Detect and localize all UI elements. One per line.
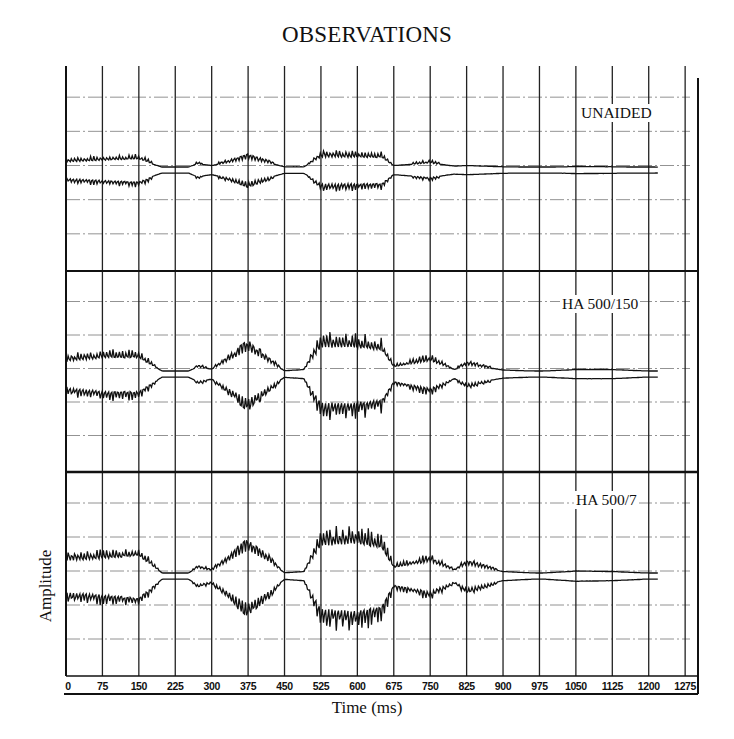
- x-tick-label: 300: [204, 680, 220, 692]
- x-tick-label: 1275: [674, 680, 696, 692]
- x-tick-label: 750: [422, 680, 438, 692]
- x-tick-label: 900: [495, 680, 511, 692]
- x-tick-label: 450: [276, 680, 292, 692]
- x-tick-label: 825: [458, 680, 474, 692]
- waveform-upper-envelope: [66, 332, 658, 371]
- waveform-lower-envelope: [66, 173, 658, 192]
- x-tick-label: 975: [531, 680, 547, 692]
- x-tick-label: 525: [313, 680, 329, 692]
- y-axis-label: Amplitude: [36, 550, 56, 623]
- x-tick-label: 0: [65, 680, 70, 692]
- waveform-upper-envelope: [66, 526, 658, 573]
- x-tick-label: 675: [386, 680, 402, 692]
- panel-label-unaided: UNAIDED: [579, 104, 654, 122]
- x-tick-label: 75: [97, 680, 108, 692]
- x-tick-label: 225: [167, 680, 183, 692]
- panel-label-ha-500-150: HA 500/150: [560, 295, 640, 313]
- x-tick-label: 1050: [565, 680, 587, 692]
- x-tick-label: 375: [240, 680, 256, 692]
- x-tick-label: 1125: [602, 680, 623, 692]
- panel-label-ha-500-7: HA 500/7: [574, 491, 639, 509]
- waveform-upper-envelope: [66, 150, 658, 167]
- x-tick-label: 150: [131, 680, 147, 692]
- x-tick-label: 1200: [638, 680, 660, 692]
- x-tick-label: 600: [349, 680, 365, 692]
- x-axis-label: Time (ms): [0, 698, 734, 718]
- waveform-lower-envelope: [66, 377, 658, 420]
